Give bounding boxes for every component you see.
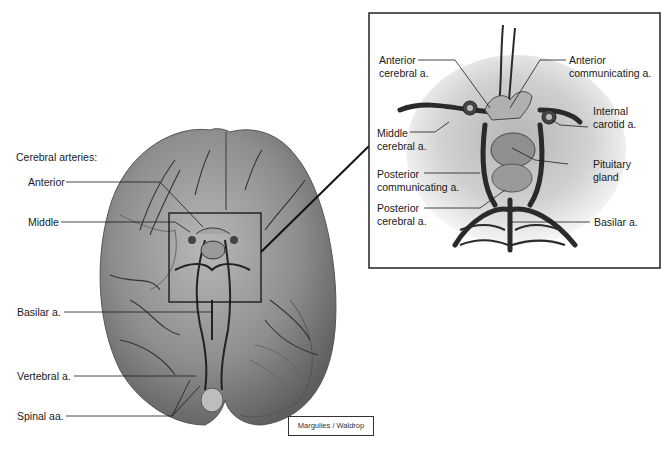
inset-label-posterior-communicating: Posterior communicating a.: [377, 168, 459, 193]
label-spinal-arteries: Spinal aa.: [17, 410, 64, 422]
inset-label-anterior-cerebral: Anterior cerebral a.: [379, 54, 429, 79]
inset-label-internal-carotid: Internal carotid a.: [593, 105, 636, 130]
inset-label-posterior-cerebral: Posterior cerebral a.: [377, 202, 427, 227]
label-vertebral-artery: Vertebral a.: [17, 370, 71, 382]
inset-label-pituitary-gland: Pituitary gland: [593, 158, 631, 183]
label-anterior: Anterior: [28, 176, 65, 188]
brain-inferior-view: [100, 129, 336, 425]
illustrator-credit: Margulies / Waldrop: [288, 416, 374, 436]
inset-label-middle-cerebral: Middle cerebral a.: [377, 127, 427, 152]
inset-label-anterior-communicating: Anterior communicating a.: [569, 54, 651, 79]
label-basilar-artery: Basilar a.: [17, 306, 61, 318]
label-middle: Middle: [28, 216, 59, 228]
inset-label-basilar-artery: Basilar a.: [594, 216, 638, 229]
heading-cerebral-arteries: Cerebral arteries:: [16, 151, 97, 163]
